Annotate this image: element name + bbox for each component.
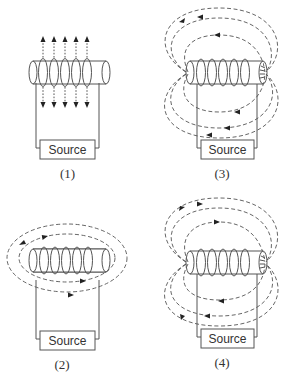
- panel-4: Source (4): [164, 198, 278, 370]
- wire-left: [36, 280, 40, 339]
- arrow-icon: [42, 234, 49, 240]
- arrow-icon: [80, 279, 86, 284]
- wire-right: [95, 83, 99, 148]
- panel-2: Source (2): [7, 224, 127, 372]
- arrow-right-icon: [179, 206, 185, 211]
- arrow-left-icon: [214, 33, 220, 38]
- source-label: Source: [208, 332, 246, 346]
- wire-right: [95, 280, 99, 339]
- cylinder-right-end: [102, 61, 110, 84]
- arrow-left-icon: [206, 133, 212, 138]
- panel-3: Source (3): [164, 8, 278, 181]
- arrow-left-icon: [218, 299, 224, 304]
- arrow-up-icon: [41, 36, 90, 42]
- panel-label: (3): [214, 166, 229, 181]
- source-label: Source: [208, 143, 246, 157]
- wire-left: [197, 272, 201, 337]
- arrow-left-icon: [197, 15, 203, 20]
- arrow-right-icon: [197, 202, 203, 207]
- wire-left: [36, 83, 40, 148]
- source-label: Source: [48, 143, 86, 157]
- panel-label: (4): [214, 355, 229, 370]
- arrow-up-left-icon: [180, 314, 185, 320]
- arrow-right-icon: [214, 220, 220, 225]
- wire-right: [254, 84, 257, 148]
- panel-label: (2): [54, 357, 69, 372]
- coil-windings: [39, 59, 92, 87]
- wire-left: [197, 84, 201, 148]
- arrow-left-icon: [224, 126, 230, 131]
- arrow-down-icon: [41, 102, 90, 108]
- arrow-left-icon: [179, 18, 185, 23]
- panel-1: Source (1): [29, 36, 110, 181]
- arrow-icon: [19, 240, 26, 245]
- panel-label: (1): [60, 166, 75, 181]
- solenoid-diagram: Source (1) Source (2): [0, 0, 297, 378]
- source-label: Source: [48, 334, 86, 348]
- arrow-icon: [68, 293, 74, 298]
- arrow-left-icon: [204, 314, 210, 319]
- wire-right: [254, 272, 257, 337]
- cylinder-left-end: [29, 61, 37, 84]
